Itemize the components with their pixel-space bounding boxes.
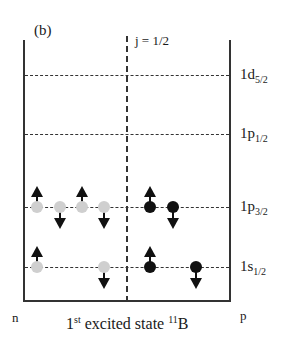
spin-up-arrow-icon bbox=[76, 186, 88, 197]
neutron bbox=[31, 261, 43, 273]
level-label-1d52: 1d5/2 bbox=[240, 66, 268, 85]
frame-left-border bbox=[23, 40, 25, 302]
spin-down-arrow-icon bbox=[167, 218, 179, 229]
spin-up-arrow-icon bbox=[144, 186, 156, 197]
spin-up-arrow-icon bbox=[144, 246, 156, 257]
spin-down-arrow-icon bbox=[190, 278, 202, 289]
proton bbox=[190, 261, 202, 273]
neutron bbox=[76, 201, 88, 213]
neutron bbox=[98, 261, 110, 273]
neutron-axis-label: n bbox=[12, 310, 19, 326]
spin-down-arrow-icon bbox=[54, 218, 66, 229]
neutron bbox=[98, 201, 110, 213]
proton bbox=[144, 261, 156, 273]
level-label-1s12: 1s1/2 bbox=[240, 258, 266, 277]
frame-right-border bbox=[229, 40, 231, 302]
panel-label: (b) bbox=[34, 22, 52, 39]
proton bbox=[144, 201, 156, 213]
spin-down-arrow-icon bbox=[98, 218, 110, 229]
spin-up-arrow-icon bbox=[31, 246, 43, 257]
neutron bbox=[31, 201, 43, 213]
level-label-1p32: 1p3/2 bbox=[240, 198, 268, 217]
neutron bbox=[54, 201, 66, 213]
j-label: j = 1/2 bbox=[135, 33, 169, 49]
level-line-1p12 bbox=[25, 134, 229, 135]
level-line-1d52 bbox=[25, 75, 229, 76]
proton bbox=[167, 201, 179, 213]
level-label-1p12: 1p1/2 bbox=[240, 125, 268, 144]
figure-caption: 1st excited state 11B bbox=[66, 314, 189, 333]
spin-up-arrow-icon bbox=[31, 186, 43, 197]
proton-axis-label: p bbox=[240, 308, 247, 324]
spin-down-arrow-icon bbox=[98, 278, 110, 289]
